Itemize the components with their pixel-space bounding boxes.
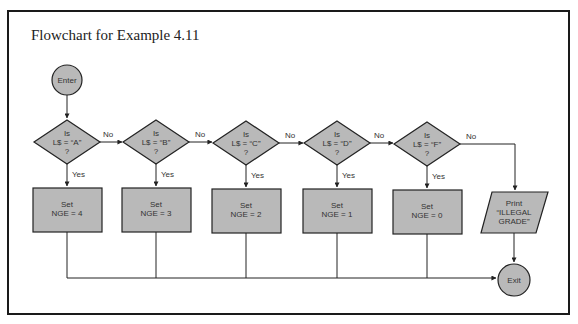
decision-a: Is L$ = “A” ? [34, 120, 100, 164]
process-text: NGE = 3 [141, 209, 172, 218]
decision-text: ? [335, 148, 340, 157]
process-nge-1: Set NGE = 1 [303, 189, 372, 233]
end-terminal: Exit [498, 264, 530, 296]
yes-label: Yes [432, 172, 445, 181]
decision-text: Is [153, 129, 159, 138]
decision-text: Is [64, 129, 70, 138]
no-label: No [285, 131, 296, 140]
decision-d: Is L$ = “D” ? [304, 121, 370, 165]
process-nge-2: Set NGE = 2 [212, 189, 281, 233]
decision-b: Is L$ = “B” ? [123, 120, 189, 164]
decision-text: ? [65, 147, 70, 156]
decision-text: L$ = “B” [142, 138, 171, 147]
no-label: No [466, 132, 477, 141]
process-text: NGE = 4 [52, 209, 83, 218]
process-text: NGE = 1 [322, 210, 353, 219]
process-text: Set [331, 201, 344, 210]
process-nge-4: Set NGE = 4 [33, 188, 102, 232]
end-label: Exit [507, 276, 521, 285]
decision-text: L$ = “A” [53, 138, 82, 147]
decision-text: ? [154, 147, 159, 156]
process-text: NGE = 2 [231, 210, 262, 219]
yes-label: Yes [72, 170, 85, 179]
no-label: No [374, 131, 385, 140]
no-label: No [195, 130, 206, 139]
process-text: Set [421, 202, 434, 211]
output-text: GRADE” [498, 217, 529, 226]
process-text: Set [150, 200, 163, 209]
process-nge-0: Set NGE = 0 [393, 190, 462, 234]
process-text: NGE = 0 [412, 211, 443, 220]
flowchart: Enter Is L$ = “A” ? No Yes Is L$ = “B” ?… [0, 0, 578, 324]
output-illegal-grade: Print “ILLEGAL GRADE” [481, 192, 548, 233]
decision-text: L$ = “D” [322, 139, 351, 148]
output-text: Print [506, 199, 523, 208]
process-text: Set [240, 201, 253, 210]
yes-label: Yes [251, 171, 264, 180]
decision-text: Is [334, 130, 340, 139]
no-label: No [103, 130, 114, 139]
decision-f: Is L$ = “F” ? [394, 122, 460, 166]
start-label: Enter [57, 76, 76, 85]
decision-text: ? [244, 148, 249, 157]
decision-text: ? [425, 149, 430, 158]
output-text: “ILLEGAL [496, 208, 532, 217]
yes-label: Yes [342, 171, 355, 180]
decision-text: L$ = “F” [413, 140, 442, 149]
yes-label: Yes [161, 170, 174, 179]
no-arrow [460, 144, 515, 190]
decision-text: Is [424, 131, 430, 140]
process-nge-3: Set NGE = 3 [122, 188, 191, 232]
decision-text: L$ = “C” [231, 139, 260, 148]
decision-c: Is L$ = “C” ? [213, 121, 279, 165]
decision-text: Is [243, 130, 249, 139]
process-text: Set [61, 200, 74, 209]
start-terminal: Enter [52, 65, 82, 95]
